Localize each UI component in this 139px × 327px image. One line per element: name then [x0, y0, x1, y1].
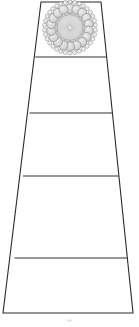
- tier-region-2: [30, 57, 113, 113]
- tapered-panel-diagram: Tapered Tiered Panel Elevation Line draw…: [0, 0, 139, 327]
- tier-region-3: [23, 113, 119, 176]
- baseline-smudge: [66, 319, 73, 322]
- tier-region-1: [35, 2, 106, 57]
- figure-root: Tapered Tiered Panel Elevation Line draw…: [0, 0, 139, 327]
- tier-region-4: [14, 176, 127, 258]
- tier-region-5: [3, 258, 133, 313]
